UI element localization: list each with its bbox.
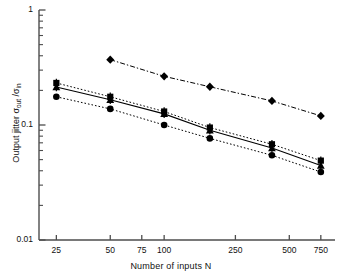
x-tick-label: 250 [219,245,251,255]
triangle-series-line [56,87,320,165]
x-tick-label: 100 [148,245,180,255]
circle-series-marker [207,135,214,142]
circle-series-marker [161,122,168,129]
diamond-series-marker [206,83,214,91]
circle-series-marker [53,93,60,100]
circle-series-marker [107,106,114,113]
y-label-sub-in: in [15,83,22,88]
y-tick-label: 1 [0,4,33,14]
jitter-log-log-chart: Output jitter σout /σin Number of inputs… [0,0,342,276]
x-tick-label: 50 [94,245,126,255]
diamond-series-marker [160,72,168,80]
circle-series-marker [318,169,325,176]
diamond-series-marker [317,112,325,120]
y-tick-label: 0.1 [0,119,33,129]
diamond-series-marker [268,97,276,105]
square-series-line [56,83,320,161]
circle-series-line [56,97,320,172]
y-tick-label: 0.01 [0,234,33,244]
plot-area [0,0,342,276]
x-tick-label: 750 [305,245,337,255]
x-tick-label: 500 [273,245,305,255]
circle-series-marker [269,152,276,159]
x-tick-label: 25 [40,245,72,255]
y-label-sub-out: out [15,99,22,108]
x-axis-label: Number of inputs N [0,261,342,271]
diamond-series-marker [106,55,114,63]
